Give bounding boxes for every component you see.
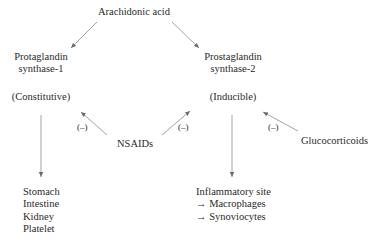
node-arachidonic-acid: Arachidonic acid <box>93 6 175 18</box>
target-item: Platelet <box>23 223 60 235</box>
arrow-aa-to-ps2 <box>172 22 199 48</box>
node-nsaids: NSAIDs <box>117 138 153 150</box>
node-ps2-type: (Inducible) <box>197 91 269 103</box>
node-ps1-line2: synthase-1 <box>6 63 76 75</box>
target-item: Stomach <box>23 186 60 198</box>
target-item: Inflammatory site <box>196 186 271 198</box>
node-ps2-line2: synthase-2 <box>197 63 269 75</box>
node-ps1-type: (Constitutive) <box>4 91 78 103</box>
targets-ps1-list: Stomach Intestine Kidney Platelet <box>23 186 60 235</box>
target-item: → Macrophages <box>196 198 271 210</box>
inhibition-label-ps1: (–) <box>77 121 88 133</box>
target-item: Kidney <box>23 211 60 223</box>
inhibition-label-ps2-gluco: (–) <box>268 121 279 133</box>
arrow-aa-to-ps1 <box>71 22 97 48</box>
inhibition-label-ps2-nsaid: (–) <box>178 121 189 133</box>
node-ps2-line1: Prostaglandin <box>197 51 269 63</box>
target-item: Intestine <box>23 198 60 210</box>
target-item: → Synoviocytes <box>196 211 271 223</box>
node-glucocorticoids: Glucocorticoids <box>301 135 368 147</box>
node-ps1-line1: Protaglandin <box>6 51 76 63</box>
targets-ps2-list: Inflammatory site → Macrophages → Synovi… <box>196 186 271 223</box>
